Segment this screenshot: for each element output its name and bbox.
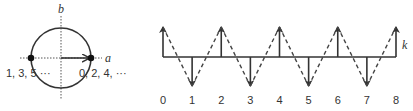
- tick-label-3: 3: [247, 94, 253, 106]
- unit-circle-panel: b a 1, 3, 5 ··· 0, 2, 4, ···: [6, 2, 127, 100]
- tick-label-5: 5: [306, 94, 312, 106]
- tick-label-4: 4: [276, 94, 282, 106]
- tick-label-7: 7: [364, 94, 370, 106]
- tick-label-8: 8: [393, 94, 399, 106]
- arrow-sequence-panel: k 012345678: [160, 27, 408, 106]
- tick-label-2: 2: [218, 94, 224, 106]
- tick-label-6: 6: [335, 94, 341, 106]
- diagram-canvas: b a 1, 3, 5 ··· 0, 2, 4, ··· k 012345678: [0, 0, 413, 111]
- tick-label-0: 0: [160, 94, 166, 106]
- even-label: 0, 2, 4, ···: [79, 67, 127, 79]
- right-point: [88, 55, 95, 62]
- tick-label-1: 1: [189, 94, 195, 106]
- k-label: k: [402, 38, 408, 52]
- a-label: a: [105, 51, 111, 65]
- b-label: b: [58, 2, 64, 16]
- left-point: [28, 55, 35, 62]
- odd-label: 1, 3, 5 ···: [6, 67, 51, 79]
